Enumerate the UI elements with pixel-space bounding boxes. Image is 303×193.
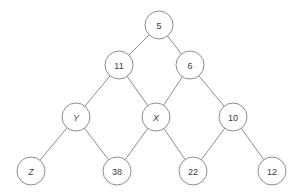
edge-5-to-6 bbox=[168, 36, 182, 54]
edge-6-to-10 bbox=[199, 76, 224, 106]
graph-node-Y[interactable]: Y bbox=[62, 103, 90, 131]
edge-11-to-X bbox=[127, 76, 148, 105]
graph-node-6[interactable]: 6 bbox=[176, 51, 204, 79]
graph-node-5[interactable]: 5 bbox=[145, 11, 173, 39]
edge-Y-to-Z bbox=[40, 128, 67, 160]
graph-node-Z[interactable]: Z bbox=[17, 157, 45, 185]
edge-10-to-12 bbox=[241, 128, 264, 159]
graph-canvas: 5116YX10Z382212 bbox=[0, 0, 303, 193]
edge-Y-to-38 bbox=[84, 128, 108, 160]
graph-node-22[interactable]: 22 bbox=[179, 157, 207, 185]
node-label-10: 10 bbox=[228, 113, 238, 123]
graph-node-12[interactable]: 12 bbox=[258, 157, 286, 185]
graph-node-38[interactable]: 38 bbox=[103, 157, 131, 185]
edge-X-to-38 bbox=[125, 128, 148, 159]
node-label-22: 22 bbox=[188, 167, 198, 177]
graph-node-10[interactable]: 10 bbox=[219, 103, 247, 131]
edge-5-to-11 bbox=[129, 35, 149, 55]
node-label-Z: Z bbox=[27, 167, 34, 177]
node-label-5: 5 bbox=[156, 21, 161, 31]
node-label-X: X bbox=[152, 113, 160, 123]
edges-layer bbox=[40, 35, 264, 160]
node-label-11: 11 bbox=[114, 61, 123, 71]
node-label-Y: Y bbox=[73, 113, 80, 123]
node-label-38: 38 bbox=[112, 167, 122, 177]
edge-X-to-22 bbox=[164, 129, 185, 160]
edge-6-to-X bbox=[164, 77, 183, 106]
graph-diagram: 5116YX10Z382212 bbox=[0, 0, 303, 193]
graph-node-11[interactable]: 11 bbox=[105, 51, 133, 79]
node-label-6: 6 bbox=[187, 61, 192, 71]
node-label-12: 12 bbox=[267, 167, 277, 177]
edge-11-to-Y bbox=[85, 76, 110, 106]
edge-10-to-22 bbox=[201, 128, 224, 160]
graph-node-X[interactable]: X bbox=[142, 103, 170, 131]
nodes-layer: 5116YX10Z382212 bbox=[17, 11, 286, 185]
